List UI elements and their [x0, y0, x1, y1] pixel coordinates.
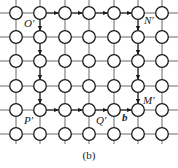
lattice-node-icon [59, 31, 72, 44]
lattice-node-icon [10, 7, 23, 20]
lattice-node-icon [108, 31, 121, 44]
label-P-prime: P′ [23, 114, 34, 126]
lattice-node-icon [83, 128, 96, 141]
lattice-node-icon [83, 104, 96, 117]
lattice-node-icon [59, 128, 72, 141]
lattice-diagram: O′N′P′Q′bM′ [0, 0, 178, 168]
lattice-node-icon [156, 7, 169, 20]
lattice-node-icon [132, 128, 145, 141]
lattice-node-icon [59, 55, 72, 68]
lattice-node-icon [108, 7, 121, 20]
lattice-node-icon [10, 55, 23, 68]
lattice-node-icon [34, 104, 47, 117]
lattice-node-icon [108, 55, 121, 68]
lattice-node-icon [10, 31, 23, 44]
lattice-node-icon [83, 80, 96, 93]
label-Q-prime: Q′ [96, 114, 107, 126]
lattice-node-icon [83, 7, 96, 20]
label-M-prime: M′ [142, 94, 155, 106]
lattice-node-icon [132, 7, 145, 20]
lattice-node-icon [34, 128, 47, 141]
lattice-node-icon [108, 80, 121, 93]
lattice-node-icon [10, 104, 23, 117]
label-O-prime: O′ [24, 17, 35, 29]
lattice-node-icon [156, 80, 169, 93]
lattice-node-icon [108, 128, 121, 141]
lattice-node-icon [59, 104, 72, 117]
lattice-node-icon [83, 55, 96, 68]
figure-caption: (b) [0, 149, 178, 161]
lattice-node-icon [10, 80, 23, 93]
label-N-prime: N′ [143, 14, 154, 26]
lattice-node-icon [132, 31, 145, 44]
lattice-node-icon [156, 128, 169, 141]
lattice-node-icon [132, 80, 145, 93]
lattice-node-icon [34, 80, 47, 93]
lattice-node-icon [156, 31, 169, 44]
lattice-node-icon [132, 55, 145, 68]
lattice-node-icon [83, 31, 96, 44]
lattice-node-icon [156, 55, 169, 68]
lattice-node-icon [108, 104, 121, 117]
lattice-node-icon [59, 80, 72, 93]
lattice-node-icon [156, 104, 169, 117]
lattice-node-icon [59, 7, 72, 20]
lattice-node-icon [34, 31, 47, 44]
lattice-node-icon [34, 7, 47, 20]
label-b-vector: b [122, 111, 128, 123]
lattice-node-icon [10, 128, 23, 141]
lattice-node-icon [34, 55, 47, 68]
